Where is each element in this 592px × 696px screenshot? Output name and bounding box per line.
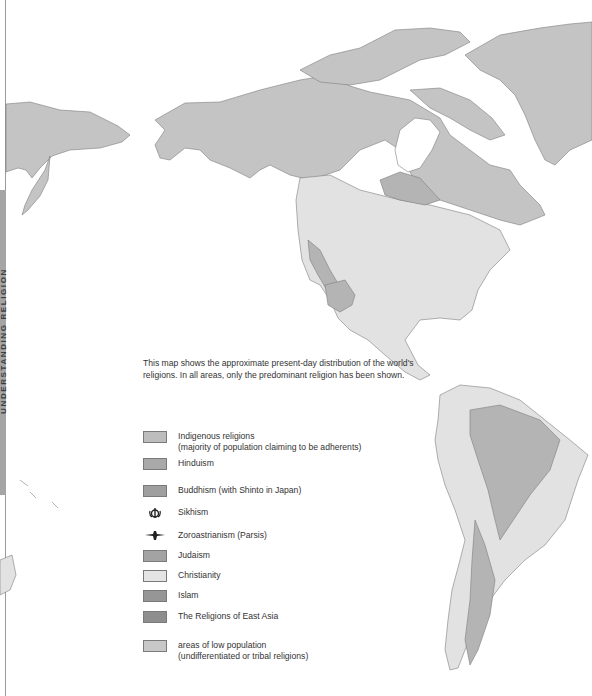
legend-label-east-asia: The Religions of East Asia <box>178 611 278 622</box>
siberia-landmass <box>6 102 130 178</box>
legend-swatch-indigenous <box>143 431 167 443</box>
legend-item-low-population: areas of low population (undifferentiate… <box>143 640 308 662</box>
khanda-icon <box>143 507 167 519</box>
legend-item-buddhism: Buddhism (with Shinto in Japan) <box>143 485 301 497</box>
legend-sublabel-low-population: (undifferentiated or tribal religions) <box>178 651 308 662</box>
americas-religion-map <box>0 0 592 696</box>
map-intro-text: This map shows the approximate present-d… <box>143 357 443 381</box>
legend-swatch-christianity <box>143 570 167 582</box>
legend-swatch-low-population <box>143 640 167 652</box>
legend-label-judaism: Judaism <box>178 550 210 561</box>
legend-label-sikhism: Sikhism <box>178 507 208 518</box>
faravahar-icon <box>143 530 167 542</box>
legend-item-zoroastrianism: Zoroastrianism (Parsis) <box>143 530 267 542</box>
legend-item-christianity: Christianity <box>143 570 221 582</box>
greenland <box>465 22 592 165</box>
legend-item-sikhism: Sikhism <box>143 507 208 519</box>
legend-label-buddhism: Buddhism (with Shinto in Japan) <box>178 485 301 496</box>
legend-sublabel-indigenous: (majority of population claiming to be a… <box>178 442 361 453</box>
legend-label-hinduism: Hinduism <box>178 458 214 469</box>
legend-item-islam: Islam <box>143 590 199 602</box>
new-zealand-north <box>0 555 16 595</box>
pacific-islands <box>20 480 58 508</box>
legend-item-indigenous: Indigenous religions (majority of popula… <box>143 431 361 453</box>
arctic-islands <box>300 28 470 85</box>
legend-label-indigenous: Indigenous religions <box>178 431 361 442</box>
legend-item-judaism: Judaism <box>143 550 210 562</box>
legend-swatch-hinduism <box>143 458 167 470</box>
legend-item-hinduism: Hinduism <box>143 458 214 470</box>
legend-swatch-buddhism <box>143 485 167 497</box>
legend-swatch-islam <box>143 590 167 602</box>
legend-label-islam: Islam <box>178 590 199 601</box>
legend-item-east-asia: The Religions of East Asia <box>143 611 278 623</box>
legend-swatch-judaism <box>143 550 167 562</box>
legend-label-zoroastrianism: Zoroastrianism (Parsis) <box>178 530 267 541</box>
legend-label-christianity: Christianity <box>178 570 221 581</box>
legend-swatch-east-asia <box>143 611 167 623</box>
legend-label-low-population: areas of low population <box>178 640 308 651</box>
